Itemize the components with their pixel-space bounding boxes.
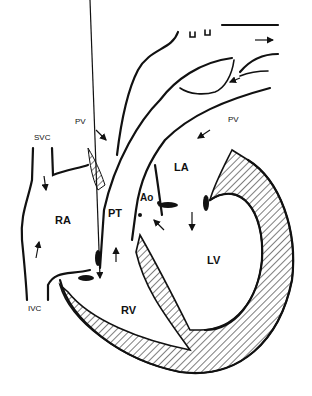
aorta-label: Ao	[140, 193, 153, 203]
heart-diagram	[0, 0, 312, 396]
pv-right-label: PV	[228, 116, 239, 124]
ivc-label: IVC	[28, 305, 41, 313]
svc-label: SVC	[34, 134, 50, 142]
left-atrium-label: LA	[174, 162, 189, 173]
left-ventricle-label: LV	[207, 255, 220, 266]
pv-left-label: PV	[75, 118, 86, 126]
right-atrium-label: RA	[55, 215, 71, 226]
right-ventricle-label: RV	[121, 305, 136, 316]
pulmonary-trunk-label: PT	[108, 208, 122, 219]
